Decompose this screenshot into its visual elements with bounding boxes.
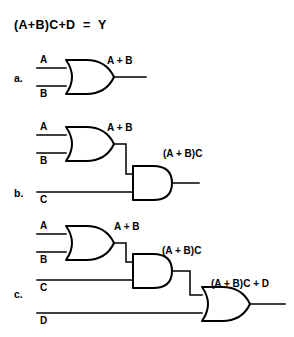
output-label-b-and: (A + B)C	[163, 148, 202, 159]
input-label-b-C: C	[40, 194, 47, 205]
section-c-circuit	[37, 226, 285, 321]
output-label-a-or: A + B	[107, 55, 132, 66]
and-gate-abc-shape	[133, 166, 172, 200]
equation-title: (A+B)C+D = Y	[14, 18, 107, 32]
input-label-c-A: A	[40, 220, 47, 231]
input-label-b-A: A	[40, 121, 47, 132]
input-label-a-B: B	[40, 88, 47, 99]
output-label-b-or: A + B	[107, 122, 132, 133]
input-label-a-A: A	[40, 54, 47, 65]
and-gate-abc-shape	[133, 254, 172, 288]
step-label-b: b.	[14, 187, 23, 199]
input-label-b-B: B	[40, 155, 47, 166]
step-label-a: a.	[14, 72, 23, 84]
step-label-c: c.	[14, 288, 23, 300]
or-gate-final-shape	[202, 287, 250, 321]
output-label-c-and: (A + B)C	[162, 245, 201, 256]
wire-c-and-to-or	[172, 271, 202, 295]
wire-c-or-to-and	[114, 243, 133, 262]
input-label-c-B: B	[40, 254, 47, 265]
or-gate-ab-shape	[66, 226, 114, 260]
input-label-c-C: C	[40, 282, 47, 293]
section-b-circuit	[37, 127, 199, 200]
output-label-c-or: A + B	[114, 221, 139, 232]
logic-diagram-canvas: (A+B)C+D = Y a. A B A + B b. A B C A + B…	[0, 0, 294, 337]
input-label-c-D: D	[40, 315, 47, 326]
wire-b-or-to-and	[114, 144, 133, 174]
output-label-c-final: (A + B)C + D	[211, 278, 269, 289]
